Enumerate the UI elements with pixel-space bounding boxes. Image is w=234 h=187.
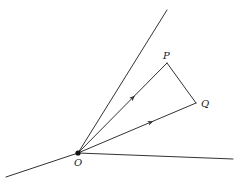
- label-o: O: [74, 157, 82, 168]
- lower-left-ray: [6, 153, 78, 177]
- label-p: P: [162, 50, 170, 61]
- right-ray: [78, 153, 233, 159]
- origin-point: [75, 150, 80, 155]
- segment-PQ: [167, 63, 196, 103]
- rays-group: [6, 10, 233, 177]
- vector-OQ: [78, 103, 196, 153]
- label-q: Q: [201, 98, 209, 109]
- upper-ray: [78, 10, 167, 153]
- vector-OP: [78, 63, 167, 153]
- geometry-diagram: O P Q: [0, 0, 234, 187]
- vectors-group: [78, 63, 196, 153]
